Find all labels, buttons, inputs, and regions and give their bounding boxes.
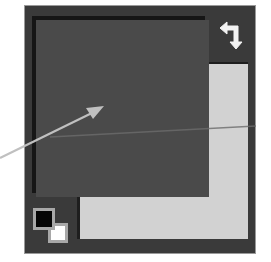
foreground-color-swatch[interactable] — [36, 20, 209, 197]
swap-colors-icon[interactable] — [214, 18, 252, 56]
default-foreground-swatch-icon — [33, 208, 55, 230]
default-colors-icon[interactable] — [32, 206, 70, 244]
